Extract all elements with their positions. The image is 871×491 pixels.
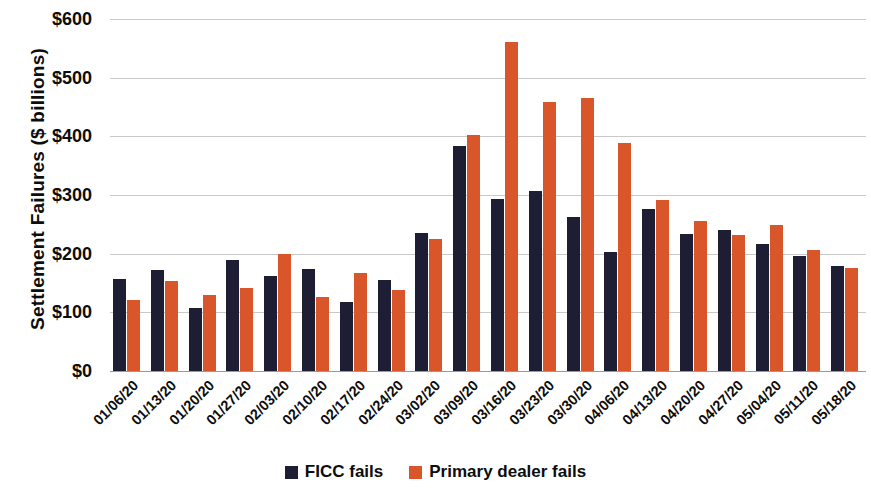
bar-ficc-fails[interactable] [113, 279, 126, 371]
bar-ficc-fails[interactable] [453, 146, 466, 371]
bar-ficc-fails[interactable] [718, 230, 731, 371]
y-axis-tick-label: $300 [0, 185, 92, 206]
bar-group[interactable] [299, 19, 337, 371]
bar-primary-dealer-fails[interactable] [770, 225, 783, 371]
bar-group[interactable] [828, 19, 866, 371]
bar-primary-dealer-fails[interactable] [429, 239, 442, 371]
bar-group[interactable] [186, 19, 224, 371]
bar-ficc-fails[interactable] [415, 233, 428, 371]
bar-group[interactable] [564, 19, 602, 371]
y-axis-tick-label: $400 [0, 126, 92, 147]
y-axis-tick-label: $100 [0, 302, 92, 323]
bar-primary-dealer-fails[interactable] [467, 135, 480, 371]
legend-item[interactable]: Primary dealer fails [409, 462, 586, 482]
bar-primary-dealer-fails[interactable] [240, 288, 253, 371]
chart-legend: FICC failsPrimary dealer fails [0, 462, 871, 482]
y-axis-tick-labels: $600$500$400$300$200$100$0 [0, 0, 100, 391]
y-axis-tick-label: $600 [0, 9, 92, 30]
ficc-swatch [285, 466, 298, 479]
bar-primary-dealer-fails[interactable] [127, 300, 140, 371]
bar-group[interactable] [148, 19, 186, 371]
bar-ficc-fails[interactable] [604, 252, 617, 371]
bar-ficc-fails[interactable] [340, 302, 353, 371]
bar-primary-dealer-fails[interactable] [354, 273, 367, 371]
bar-ficc-fails[interactable] [793, 256, 806, 371]
legend-item[interactable]: FICC fails [285, 462, 383, 482]
bar-ficc-fails[interactable] [378, 280, 391, 371]
bar-primary-dealer-fails[interactable] [203, 295, 216, 371]
bars-layer [110, 19, 866, 371]
bar-group[interactable] [450, 19, 488, 371]
bar-primary-dealer-fails[interactable] [316, 297, 329, 371]
bar-ficc-fails[interactable] [491, 199, 504, 371]
bar-primary-dealer-fails[interactable] [278, 254, 291, 371]
bar-group[interactable] [261, 19, 299, 371]
bar-group[interactable] [677, 19, 715, 371]
bar-primary-dealer-fails[interactable] [392, 290, 405, 371]
bar-group[interactable] [375, 19, 413, 371]
x-axis-tick-labels: 01/06/2001/13/2001/20/2001/27/2002/03/20… [110, 371, 866, 461]
bar-primary-dealer-fails[interactable] [694, 221, 707, 371]
bar-group[interactable] [715, 19, 753, 371]
bar-group[interactable] [412, 19, 450, 371]
primary-dealer-swatch [409, 466, 422, 479]
bar-group[interactable] [110, 19, 148, 371]
bar-primary-dealer-fails[interactable] [505, 42, 518, 371]
bar-ficc-fails[interactable] [151, 270, 164, 371]
bar-ficc-fails[interactable] [302, 269, 315, 371]
bar-group[interactable] [526, 19, 564, 371]
bar-primary-dealer-fails[interactable] [732, 235, 745, 371]
bar-group[interactable] [601, 19, 639, 371]
bar-group[interactable] [753, 19, 791, 371]
bar-ficc-fails[interactable] [189, 308, 202, 371]
bar-primary-dealer-fails[interactable] [656, 200, 669, 371]
bar-ficc-fails[interactable] [642, 209, 655, 371]
bar-ficc-fails[interactable] [264, 276, 277, 371]
bar-ficc-fails[interactable] [756, 244, 769, 371]
bar-ficc-fails[interactable] [226, 260, 239, 371]
bar-primary-dealer-fails[interactable] [845, 268, 858, 371]
bar-ficc-fails[interactable] [567, 217, 580, 371]
legend-label: Primary dealer fails [429, 462, 586, 482]
bar-ficc-fails[interactable] [529, 191, 542, 371]
plot-area [110, 19, 866, 371]
y-axis-tick-label: $0 [0, 361, 92, 382]
bar-ficc-fails[interactable] [831, 266, 844, 371]
bar-primary-dealer-fails[interactable] [807, 250, 820, 371]
bar-chart: Settlement Failures ($ billions) $600$50… [0, 0, 871, 491]
bar-primary-dealer-fails[interactable] [618, 143, 631, 371]
y-axis-tick-label: $200 [0, 243, 92, 264]
bar-primary-dealer-fails[interactable] [165, 281, 178, 371]
legend-label: FICC fails [305, 462, 383, 482]
bar-group[interactable] [337, 19, 375, 371]
bar-group[interactable] [223, 19, 261, 371]
y-axis-tick-label: $500 [0, 67, 92, 88]
bar-group[interactable] [639, 19, 677, 371]
bar-primary-dealer-fails[interactable] [581, 98, 594, 371]
bar-primary-dealer-fails[interactable] [543, 102, 556, 371]
bar-group[interactable] [790, 19, 828, 371]
bar-group[interactable] [488, 19, 526, 371]
bar-ficc-fails[interactable] [680, 234, 693, 371]
